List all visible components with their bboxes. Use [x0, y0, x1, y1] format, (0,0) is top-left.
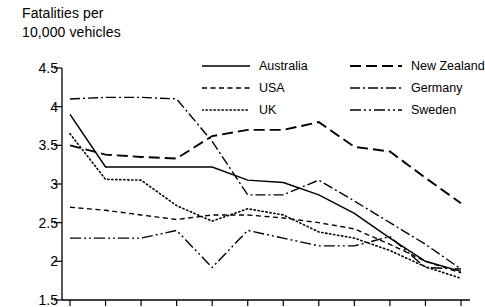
- legend-label: Sweden: [411, 103, 456, 117]
- legend-label: UK: [259, 103, 276, 117]
- legend-swatch-icon: [350, 61, 402, 71]
- legend-item-germany: Germany: [350, 77, 485, 99]
- series-line-usa: [70, 207, 461, 273]
- legend-label: New Zealand: [411, 59, 485, 73]
- series-line-uk: [70, 134, 461, 279]
- series-line-sweden: [70, 230, 461, 269]
- legend-column-right: New ZealandGermanySweden: [350, 55, 485, 121]
- legend-label: Australia: [259, 59, 308, 73]
- legend-item-uk: UK: [202, 99, 308, 121]
- legend-swatch-icon: [350, 105, 402, 115]
- series-line-new-zealand: [70, 122, 461, 203]
- series-line-germany: [70, 97, 461, 269]
- legend-swatch-icon: [202, 105, 250, 115]
- legend-label: Germany: [411, 81, 462, 95]
- legend-label: USA: [259, 81, 285, 95]
- legend-swatch-icon: [350, 83, 402, 93]
- legend-swatch-icon: [202, 61, 250, 71]
- series-line-australia: [70, 114, 461, 271]
- legend-item-new-zealand: New Zealand: [350, 55, 485, 77]
- legend-item-australia: Australia: [202, 55, 308, 77]
- legend-item-usa: USA: [202, 77, 308, 99]
- legend-column-left: AustraliaUSAUK: [202, 55, 308, 121]
- legend-swatch-icon: [202, 83, 250, 93]
- legend-item-sweden: Sweden: [350, 99, 485, 121]
